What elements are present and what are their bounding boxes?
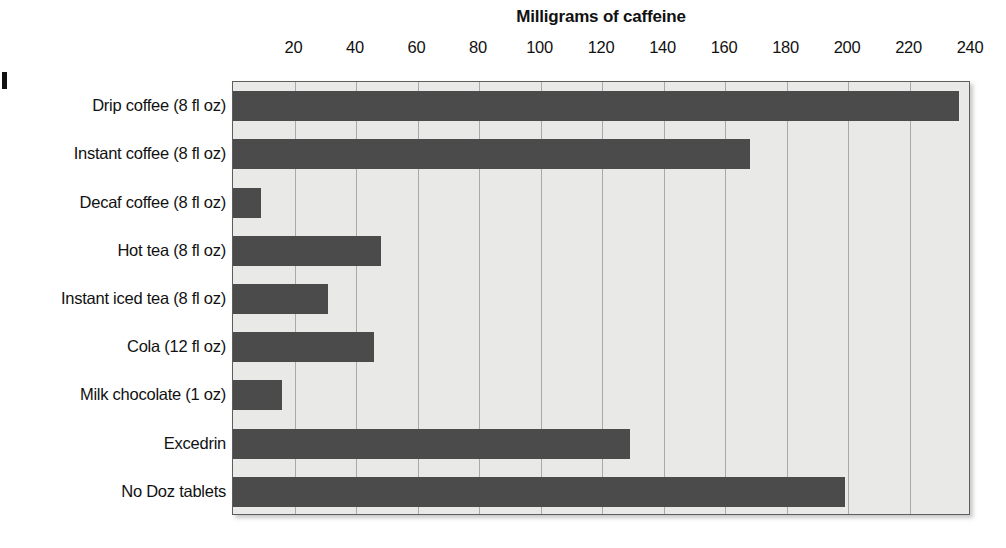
x-tick-label: 160 [711, 38, 738, 57]
x-tick-label: 180 [772, 38, 799, 57]
x-tick-label: 60 [408, 38, 426, 57]
y-axis-label: Decaf coffee (8 fl oz) [0, 192, 226, 211]
y-axis-label: Drip coffee (8 fl oz) [0, 96, 226, 115]
y-axis-label: Excedrin [0, 433, 226, 452]
x-tick-label: 140 [649, 38, 676, 57]
x-tick-label: 220 [895, 38, 922, 57]
bar [233, 429, 630, 459]
plot-inner [233, 82, 969, 514]
y-axis-label: Milk chocolate (1 oz) [0, 385, 226, 404]
chart-title: Milligrams of caffeine [232, 7, 970, 27]
y-axis-label: Instant coffee (8 fl oz) [0, 144, 226, 163]
bar [233, 236, 381, 266]
x-tick-label: 200 [834, 38, 861, 57]
bar [233, 477, 845, 507]
bar [233, 380, 282, 410]
y-axis-label: Cola (12 fl oz) [0, 337, 226, 356]
y-axis-label: Instant iced tea (8 fl oz) [0, 289, 226, 308]
bar [233, 284, 328, 314]
x-tick-label: 240 [957, 38, 984, 57]
x-tick-label: 20 [285, 38, 303, 57]
y-axis-label: No Doz tablets [0, 481, 226, 500]
gridline [848, 82, 849, 514]
x-axis-tick-labels: 20406080100120140160180200220240 [232, 38, 970, 64]
x-tick-label: 80 [469, 38, 487, 57]
bar [233, 91, 959, 121]
gridline [787, 82, 788, 514]
plot-area [232, 81, 970, 515]
y-axis-label: Hot tea (8 fl oz) [0, 240, 226, 259]
bar [233, 139, 750, 169]
y-axis-category-labels: Drip coffee (8 fl oz)Instant coffee (8 f… [0, 81, 226, 515]
x-tick-label: 120 [588, 38, 615, 57]
chart-page: Milligrams of caffeine 20406080100120140… [0, 0, 1006, 548]
gridline [910, 82, 911, 514]
x-tick-label: 40 [346, 38, 364, 57]
bar [233, 332, 374, 362]
bar [233, 188, 261, 218]
x-tick-label: 100 [526, 38, 553, 57]
